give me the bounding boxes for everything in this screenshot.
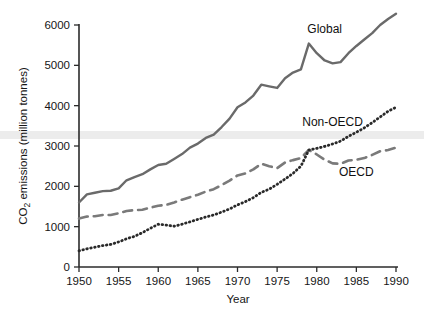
series-line-oecd bbox=[79, 148, 396, 219]
series-label-oecd: OECD bbox=[339, 165, 374, 179]
data-series-group bbox=[79, 14, 396, 251]
y-tick-label: 4000 bbox=[44, 100, 70, 112]
co2-emissions-line-chart: 0100020003000400050006000 19501955196019… bbox=[0, 0, 424, 326]
chart-page: 0100020003000400050006000 19501955196019… bbox=[0, 0, 424, 326]
x-tick-label: 1960 bbox=[145, 275, 171, 287]
y-tick-label: 0 bbox=[64, 261, 70, 273]
y-axis-title: CO2 emissions (million tonnes) bbox=[17, 67, 32, 225]
x-tick-label: 1950 bbox=[66, 275, 92, 287]
x-axis-title: Year bbox=[226, 293, 249, 305]
x-tick-label: 1990 bbox=[383, 275, 409, 287]
x-tick-label: 1985 bbox=[344, 275, 370, 287]
x-tick-label: 1955 bbox=[106, 275, 132, 287]
y-tick-label: 6000 bbox=[44, 19, 70, 31]
y-tick-label: 2000 bbox=[44, 180, 70, 192]
x-tick-label: 1965 bbox=[185, 275, 211, 287]
x-tick-label: 1980 bbox=[304, 275, 330, 287]
y-tick-label: 3000 bbox=[44, 140, 70, 152]
series-label-non-oecd: Non-OECD bbox=[302, 115, 363, 129]
y-tick-label: 1000 bbox=[44, 221, 70, 233]
x-tick-label: 1970 bbox=[225, 275, 251, 287]
y-tick-label: 5000 bbox=[44, 59, 70, 71]
x-axis-ticks: 195019551960196519701975198019851990 bbox=[66, 267, 409, 287]
series-annotations: GlobalNon-OECDOECD bbox=[302, 22, 374, 179]
chart-axes bbox=[79, 24, 398, 267]
y-axis-ticks: 0100020003000400050006000 bbox=[44, 19, 79, 273]
x-tick-label: 1975 bbox=[264, 275, 290, 287]
series-label-global: Global bbox=[307, 22, 342, 36]
